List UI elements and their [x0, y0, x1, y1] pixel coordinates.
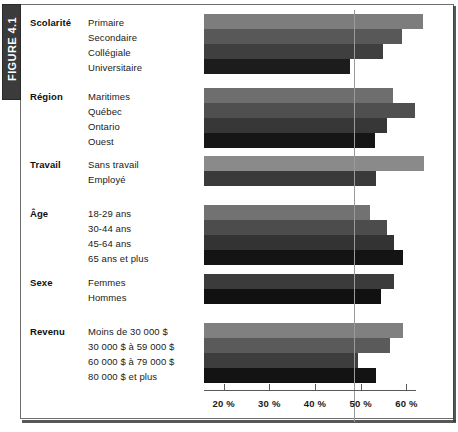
x-axis-tick-label: 40 % [290, 398, 340, 409]
bar-category-label: Hommes [88, 292, 127, 303]
x-axis-tick-label: 30 % [244, 398, 294, 409]
bar [204, 59, 350, 74]
bar [204, 368, 376, 383]
bar [204, 205, 370, 220]
x-axis-tick [406, 384, 407, 390]
x-axis-tick [315, 384, 316, 390]
bar-group-label: Âge [30, 208, 48, 219]
x-axis-tick-label: 50 % [336, 398, 386, 409]
bar-category-label: Universitaire [88, 62, 142, 73]
bar [204, 323, 403, 338]
bar-group-label: Sexe [30, 277, 53, 288]
bar-category-label: 30-44 ans [88, 223, 131, 234]
bar-category-label: 45-64 ans [88, 238, 131, 249]
bar [204, 14, 423, 29]
bar [204, 88, 393, 103]
bar [204, 29, 402, 44]
bar-category-label: Secondaire [88, 32, 137, 43]
bar-category-label: Québec [88, 106, 122, 117]
frame-shadow-bottom [22, 420, 456, 423]
bar [204, 353, 358, 368]
bar-group-label: Scolarité [30, 17, 71, 28]
x-axis-tick [361, 384, 362, 390]
bar-category-label: Ontario [88, 121, 120, 132]
reference-line [354, 10, 355, 422]
x-axis-tick-label: 20 % [199, 398, 249, 409]
bar-category-label: 65 ans et plus [88, 253, 149, 264]
bar-category-label: Maritimes [88, 91, 130, 102]
x-axis-tick [224, 384, 225, 390]
bar-chart-plot: ScolaritéPrimaireSecondaireCollégialeUni… [20, 4, 454, 419]
bar [204, 44, 383, 59]
bar-category-label: 80 000 $ et plus [88, 371, 157, 382]
bar-category-label: 18-29 ans [88, 208, 131, 219]
bar-category-label: Primaire [88, 17, 124, 28]
bar [204, 250, 403, 265]
bar [204, 103, 415, 118]
bar [204, 118, 387, 133]
bar-group-label: Travail [30, 159, 61, 170]
bar-category-label: 60 000 $ à 79 000 $ [88, 356, 174, 367]
bar [204, 171, 376, 186]
bar [204, 156, 424, 171]
bar-group-label: Revenu [30, 326, 65, 337]
x-axis-line [204, 390, 416, 391]
bar [204, 133, 375, 148]
bar-category-label: Femmes [88, 277, 126, 288]
bar-group-label: Région [30, 91, 63, 102]
bar [204, 274, 394, 289]
bar-category-label: Sans travail [88, 159, 139, 170]
bar [204, 235, 394, 250]
bar [204, 338, 390, 353]
bar-category-label: Employé [88, 174, 126, 185]
bar-category-label: Moins de 30 000 $ [88, 326, 168, 337]
bar-category-label: Collégiale [88, 47, 131, 58]
figure-number-tab: FIGURE 4.1 [2, 4, 21, 100]
figure-number-label: FIGURE 4.1 [6, 1, 18, 97]
figure-root: FIGURE 4.1 ScolaritéPrimaireSecondaireCo… [0, 0, 458, 432]
bar-category-label: 30 000 $ à 59 000 $ [88, 341, 174, 352]
bar [204, 220, 387, 235]
x-axis-tick-label: 60 % [381, 398, 431, 409]
x-axis-tick [269, 384, 270, 390]
bar-category-label: Ouest [88, 136, 114, 147]
